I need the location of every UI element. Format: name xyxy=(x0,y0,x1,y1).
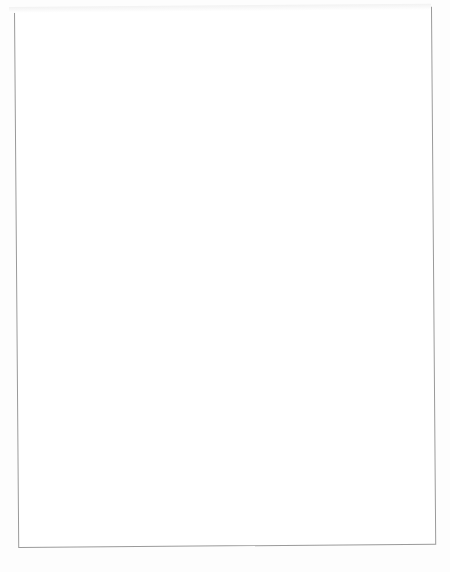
figure-rotated-wrapper xyxy=(24,524,450,572)
panel-grid xyxy=(50,31,440,546)
scanned-page xyxy=(0,0,450,572)
figure-canvas xyxy=(50,31,440,546)
